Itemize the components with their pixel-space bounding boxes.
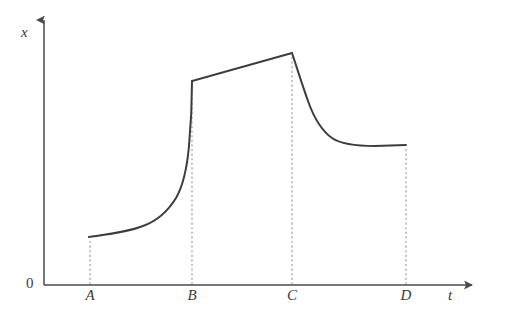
x-tick-label-b: B [187, 288, 196, 303]
x-tick-label-c: C [287, 288, 297, 303]
origin-label: 0 [26, 276, 34, 291]
chart-canvas [0, 0, 506, 322]
data-curve [89, 53, 406, 237]
x-axis-label: t [448, 288, 452, 303]
x-tick-label-a: A [85, 288, 94, 303]
guide-lines [90, 54, 406, 284]
x-tick-label-d: D [401, 288, 412, 303]
y-axis-label: x [21, 25, 28, 40]
figure-container: x 0 t A B C D [0, 0, 506, 322]
